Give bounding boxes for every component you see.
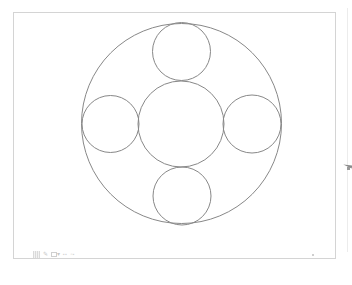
zoom-icon: ▪▪ <box>63 251 68 258</box>
drawing-canvas[interactable] <box>0 0 352 285</box>
bottom-circle[interactable] <box>153 167 211 225</box>
center-circle[interactable] <box>138 81 224 167</box>
chevron-down-icon: ▾ <box>57 251 60 258</box>
pencil-button[interactable]: ✎ <box>43 251 48 258</box>
outer-circle[interactable] <box>82 24 282 224</box>
drawing-viewer: ✎ ▾ ▪▪ ▫▪ <box>0 0 352 285</box>
zoom-button[interactable]: ▪▪ <box>63 251 68 258</box>
layout-button[interactable]: ▫▪ <box>71 251 76 258</box>
top-circle[interactable] <box>153 23 211 81</box>
grid-icon <box>33 251 40 258</box>
scroll-track[interactable] <box>347 8 348 252</box>
status-indicator <box>312 254 314 256</box>
right-circle[interactable] <box>223 95 281 153</box>
grid-button[interactable] <box>33 251 40 258</box>
left-circle[interactable] <box>82 96 139 153</box>
frame-button[interactable]: ▾ <box>51 251 60 258</box>
layout-icon: ▫▪ <box>71 251 76 258</box>
cursor-tail-icon <box>347 167 350 170</box>
bottom-toolbar: ✎ ▾ ▪▪ ▫▪ <box>33 250 75 258</box>
pencil-icon: ✎ <box>43 251 48 258</box>
